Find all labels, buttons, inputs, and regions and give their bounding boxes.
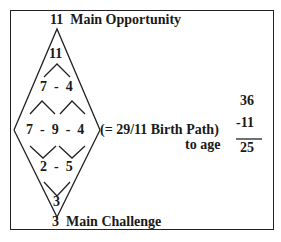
row-4-numbers: 2 - 5 [40,160,73,174]
calc-top-value: 36 [240,94,254,108]
main-opportunity-label: 11 Main Opportunity [50,13,181,27]
main-challenge-label: 3 Main Challenge [52,215,161,229]
apex-top-number: 11 [49,47,62,61]
row-2-numbers: 7 - 4 [40,80,73,94]
calc-subtract-value: -11 [236,116,254,130]
row-3-numbers: 7 - 9 - 4 [26,123,84,137]
birth-path-note: (= 29/11 Birth Path) [100,123,219,137]
calc-result-value: 25 [240,141,254,155]
apex-bottom-number: 3 [53,195,60,209]
to-age-label: to age [185,138,220,152]
